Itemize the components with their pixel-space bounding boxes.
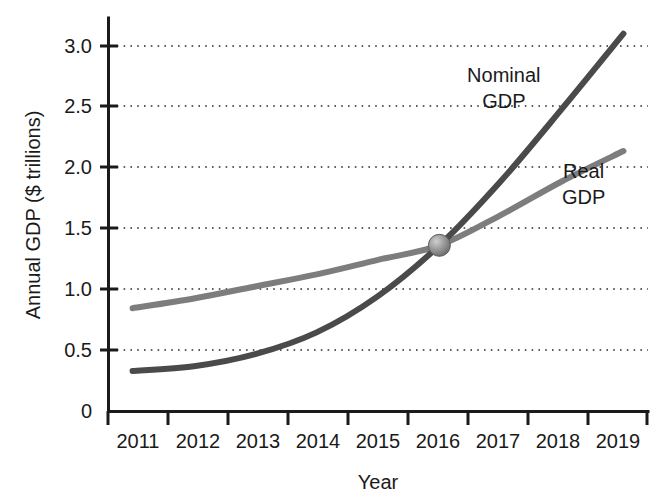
chart-canvas: 3.0 2.5 2.0 1.5 1.0 0.5 0 2011 2012 2013… xyxy=(0,0,668,504)
x-tick-label-2015: 2015 xyxy=(356,430,401,452)
y-tick-label-3-0: 3.0 xyxy=(64,35,92,57)
chart-background xyxy=(0,0,668,504)
intersection-marker-group xyxy=(428,234,450,256)
y-tick-label-2-5: 2.5 xyxy=(64,95,92,117)
annotation-nominal-gdp-line1: Nominal xyxy=(467,64,540,86)
annotation-real-gdp-line2: GDP xyxy=(562,186,605,208)
y-tick-label-2-0: 2.0 xyxy=(64,156,92,178)
intersection-point-marker xyxy=(428,234,450,256)
annotation-nominal-gdp-line2: GDP xyxy=(482,90,525,112)
x-tick-label-2017: 2017 xyxy=(476,430,521,452)
x-tick-label-2016: 2016 xyxy=(416,430,461,452)
y-tick-label-0-5: 0.5 xyxy=(64,339,92,361)
x-tick-label-2013: 2013 xyxy=(236,430,281,452)
y-axis-title: Annual GDP ($ trillions) xyxy=(22,111,44,320)
y-tick-label-1-0: 1.0 xyxy=(64,278,92,300)
x-tick-label-2014: 2014 xyxy=(296,430,341,452)
gdp-line-chart-figure: 3.0 2.5 2.0 1.5 1.0 0.5 0 2011 2012 2013… xyxy=(0,0,668,504)
x-axis-title: Year xyxy=(358,471,399,493)
x-tick-label-2012: 2012 xyxy=(176,430,221,452)
x-tick-label-2011: 2011 xyxy=(116,430,159,452)
x-tick-label-2019: 2019 xyxy=(596,430,641,452)
x-tick-labels: 2011 2012 2013 2014 2015 2016 2017 2018 … xyxy=(116,430,640,452)
y-tick-label-1-5: 1.5 xyxy=(64,217,92,239)
y-tick-label-0: 0 xyxy=(81,400,92,422)
x-tick-label-2018: 2018 xyxy=(536,430,581,452)
annotation-real-gdp-line1: Real xyxy=(563,160,604,182)
